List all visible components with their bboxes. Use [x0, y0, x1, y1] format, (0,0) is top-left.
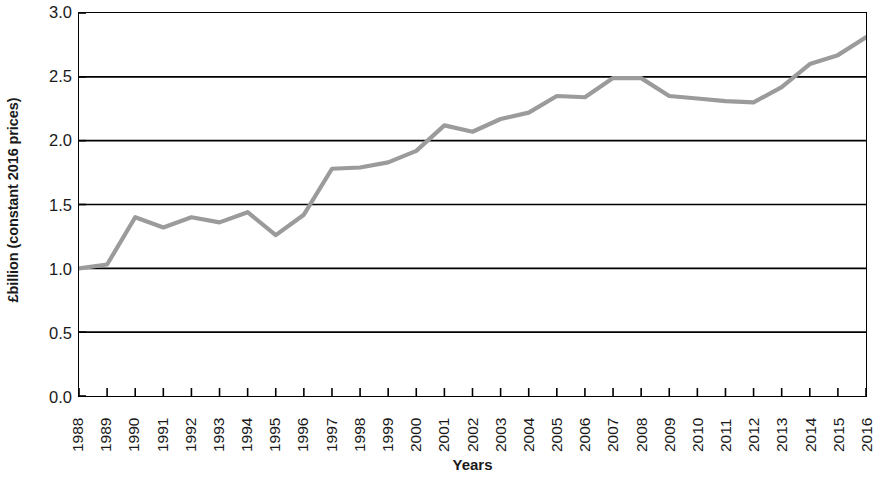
- x-tick-label: 1996: [295, 398, 311, 452]
- y-axis-title: £billion (constant 2016 prices): [2, 0, 24, 400]
- x-tick-label-text: 1992: [183, 398, 199, 452]
- x-tick-label: 2011: [718, 398, 734, 452]
- y-tick-label: 2.5: [24, 68, 72, 85]
- x-tick-label-text: 1988: [70, 398, 86, 452]
- x-tick-label-text: 2003: [493, 398, 509, 452]
- x-tick-label-text: 2008: [634, 398, 650, 452]
- x-tick-label: 2004: [521, 398, 537, 452]
- x-tick-label-text: 2007: [605, 398, 621, 452]
- x-tick-label: 2006: [577, 398, 593, 452]
- x-tick-label: 2002: [465, 398, 481, 452]
- y-tick-label: 0.5: [24, 325, 72, 342]
- x-tick-label: 1988: [70, 398, 86, 452]
- x-tick-label-text: 1998: [352, 398, 368, 452]
- x-tick-label-text: 1996: [295, 398, 311, 452]
- y-tick-label: 1.0: [24, 260, 72, 277]
- x-tick-label-text: 2014: [803, 398, 819, 452]
- x-tick-label-text: 1990: [126, 398, 142, 452]
- x-tick-label: 2016: [859, 398, 875, 452]
- x-tick-label: 1989: [98, 398, 114, 452]
- x-tick-label: 2015: [831, 398, 847, 452]
- x-tick-label: 1992: [183, 398, 199, 452]
- x-tick-label-text: 2011: [718, 398, 734, 452]
- y-axis-tick-labels: 0.00.51.01.52.02.53.0: [24, 0, 72, 410]
- x-tick-label: 2001: [436, 398, 452, 452]
- y-tick-label: 0.0: [24, 389, 72, 406]
- x-tick-label-text: 2015: [831, 398, 847, 452]
- x-tick-label: 1995: [267, 398, 283, 452]
- x-tick-label-text: 2006: [577, 398, 593, 452]
- x-tick-label-text: 1989: [98, 398, 114, 452]
- x-tick-label-text: 1993: [211, 398, 227, 452]
- x-tick-label-text: 2002: [465, 398, 481, 452]
- x-tick-label-text: 2001: [436, 398, 452, 452]
- x-tick-label: 1998: [352, 398, 368, 452]
- line-chart: £billion (constant 2016 prices) 0.00.51.…: [0, 0, 878, 482]
- x-tick-label: 1993: [211, 398, 227, 452]
- x-tick-label-text: 2005: [549, 398, 565, 452]
- x-tick-label-text: 1999: [380, 398, 396, 452]
- x-tick-label: 2000: [408, 398, 424, 452]
- x-tick-label: 1997: [324, 398, 340, 452]
- x-tick-label: 1994: [239, 398, 255, 452]
- data-series-line: [79, 37, 866, 268]
- y-tick-label: 2.0: [24, 132, 72, 149]
- plot-svg: [79, 13, 866, 396]
- x-tick-label-text: 2000: [408, 398, 424, 452]
- x-tick-label: 2005: [549, 398, 565, 452]
- x-tick-label-text: 2004: [521, 398, 537, 452]
- x-tick-label: 1999: [380, 398, 396, 452]
- x-tick-label-text: 2013: [774, 398, 790, 452]
- y-tick-label: 3.0: [24, 4, 72, 21]
- x-tick-label: 2008: [634, 398, 650, 452]
- x-tick-label: 1990: [126, 398, 142, 452]
- x-tick-label: 2012: [746, 398, 762, 452]
- x-tick-label: 2007: [605, 398, 621, 452]
- x-tick-label-text: 1997: [324, 398, 340, 452]
- x-tick-label: 2014: [803, 398, 819, 452]
- x-tick-label: 2013: [774, 398, 790, 452]
- plot-area: [78, 12, 867, 397]
- x-tick-label-text: 1994: [239, 398, 255, 452]
- x-tick-label: 2010: [690, 398, 706, 452]
- y-tick-label: 1.5: [24, 196, 72, 213]
- x-axis-tick-labels: 1988198919901991199219931994199519961997…: [78, 398, 867, 452]
- x-tick-label-text: 2016: [859, 398, 875, 452]
- x-tick-label-text: 1991: [155, 398, 171, 452]
- x-tick-label: 1991: [155, 398, 171, 452]
- x-tick-label-text: 2010: [690, 398, 706, 452]
- x-tick-label-text: 2012: [746, 398, 762, 452]
- x-axis-title: Years: [78, 456, 867, 473]
- x-tick-label-text: 1995: [267, 398, 283, 452]
- x-tick-label: 2009: [662, 398, 678, 452]
- x-tick-label: 2003: [493, 398, 509, 452]
- x-tick-label-text: 2009: [662, 398, 678, 452]
